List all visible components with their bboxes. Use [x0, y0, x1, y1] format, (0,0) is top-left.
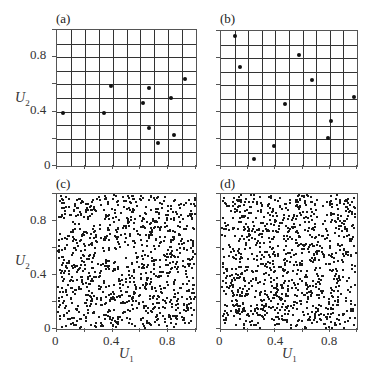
data-point	[327, 234, 329, 236]
data-point	[186, 305, 188, 307]
data-point	[240, 266, 242, 268]
data-point	[174, 256, 176, 258]
y-axis-tick	[216, 111, 220, 112]
data-point	[66, 244, 68, 246]
data-point	[150, 324, 152, 326]
data-point	[185, 202, 187, 204]
data-point	[333, 213, 335, 215]
grid-plot-a	[56, 29, 197, 167]
data-point	[166, 281, 168, 283]
data-point	[192, 288, 194, 290]
data-point	[337, 296, 339, 298]
data-point	[174, 293, 176, 295]
data-point	[287, 218, 289, 220]
data-point	[145, 234, 147, 236]
data-point	[293, 264, 295, 266]
data-point	[256, 202, 258, 204]
data-point	[227, 314, 229, 316]
data-point	[303, 248, 305, 250]
data-point	[223, 290, 225, 292]
data-point	[173, 289, 175, 291]
data-point	[249, 206, 251, 208]
data-point	[338, 235, 340, 237]
data-point	[255, 290, 257, 292]
data-point	[158, 213, 160, 215]
data-point	[86, 232, 88, 234]
data-point	[316, 199, 318, 201]
data-point	[255, 324, 257, 326]
data-point	[144, 212, 146, 214]
data-point	[296, 264, 298, 266]
data-point	[335, 286, 337, 288]
data-point	[161, 207, 163, 209]
data-point	[147, 126, 151, 130]
data-point	[127, 222, 129, 224]
data-point	[277, 255, 279, 257]
data-point	[85, 316, 87, 318]
data-point	[131, 297, 133, 299]
data-point	[100, 297, 102, 299]
grid-line-horizontal	[57, 98, 196, 99]
data-point	[133, 271, 135, 273]
x-axis-tick	[139, 328, 140, 332]
data-point	[263, 273, 265, 275]
data-point	[293, 214, 295, 216]
data-point	[263, 216, 265, 218]
data-point	[66, 267, 68, 269]
data-point	[172, 230, 174, 232]
data-point	[346, 310, 348, 312]
data-point	[335, 273, 337, 275]
data-point	[331, 270, 333, 272]
data-point	[74, 205, 76, 207]
data-point	[222, 266, 224, 268]
data-point	[113, 293, 115, 295]
data-point	[273, 287, 275, 289]
data-point	[239, 261, 241, 263]
data-point	[342, 276, 344, 278]
data-point	[289, 228, 291, 230]
data-point	[117, 323, 119, 325]
data-point	[190, 302, 192, 304]
data-point	[144, 327, 146, 329]
data-point	[75, 249, 77, 251]
data-point	[180, 240, 182, 242]
data-point	[297, 269, 299, 271]
data-point	[95, 322, 97, 324]
data-point	[273, 224, 275, 226]
data-point	[318, 297, 320, 299]
data-point	[335, 268, 337, 270]
data-point	[248, 201, 250, 203]
grid-line-vertical	[182, 30, 183, 166]
data-point	[131, 304, 133, 306]
data-point	[240, 201, 242, 203]
data-point	[128, 274, 130, 276]
data-point	[57, 311, 59, 313]
data-point	[260, 258, 262, 260]
data-point	[316, 253, 318, 255]
data-point	[301, 292, 303, 294]
data-point	[131, 263, 133, 265]
data-point	[351, 238, 353, 240]
data-point	[245, 198, 247, 200]
data-point	[78, 223, 80, 225]
data-point	[283, 270, 285, 272]
data-point	[136, 205, 138, 207]
data-point	[190, 215, 192, 217]
x-axis-tick	[220, 328, 221, 332]
data-point	[76, 242, 78, 244]
data-point	[167, 249, 169, 251]
data-point	[181, 238, 183, 240]
data-point	[325, 263, 327, 265]
data-point	[268, 203, 270, 205]
data-point	[167, 256, 169, 258]
data-point	[238, 240, 240, 242]
data-point	[256, 242, 258, 244]
data-point	[104, 198, 106, 200]
data-point	[254, 310, 256, 312]
data-point	[229, 246, 231, 248]
data-point	[151, 260, 153, 262]
y-axis-tick	[52, 83, 56, 84]
data-point	[318, 294, 320, 296]
data-point	[167, 205, 169, 207]
data-point	[285, 306, 287, 308]
